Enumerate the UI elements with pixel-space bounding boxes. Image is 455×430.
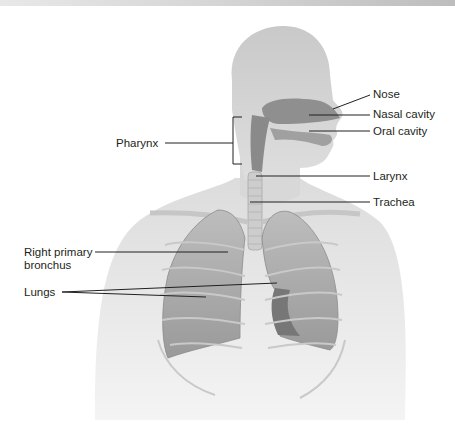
label-oral-cavity: Oral cavity — [373, 125, 427, 138]
label-pharynx: Pharynx — [116, 137, 158, 150]
label-right-primary-bronchus: Right primary bronchus — [24, 246, 92, 272]
label-right-primary-bronchus-line2: bronchus — [24, 259, 92, 272]
trachea-shape — [248, 172, 262, 250]
respiratory-illustration — [0, 0, 455, 430]
label-trachea: Trachea — [373, 196, 415, 209]
label-right-primary-bronchus-line1: Right primary — [24, 246, 92, 259]
label-nasal-cavity: Nasal cavity — [373, 108, 435, 121]
label-lungs: Lungs — [24, 286, 55, 299]
label-larynx: Larynx — [373, 170, 408, 183]
label-nose: Nose — [373, 88, 400, 101]
